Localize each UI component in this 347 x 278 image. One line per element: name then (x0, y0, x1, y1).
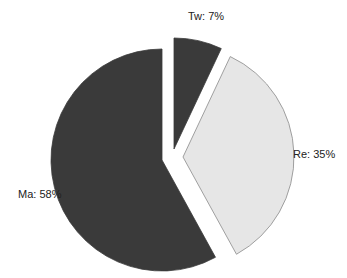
pie-chart: Tw: 7% Re: 35% Ma: 58% (0, 0, 347, 278)
pie-slices (51, 38, 294, 271)
slice-label-ma: Ma: 58% (18, 188, 62, 200)
slice-label-re: Re: 35% (293, 148, 335, 160)
slice-label-tw: Tw: 7% (188, 10, 224, 22)
